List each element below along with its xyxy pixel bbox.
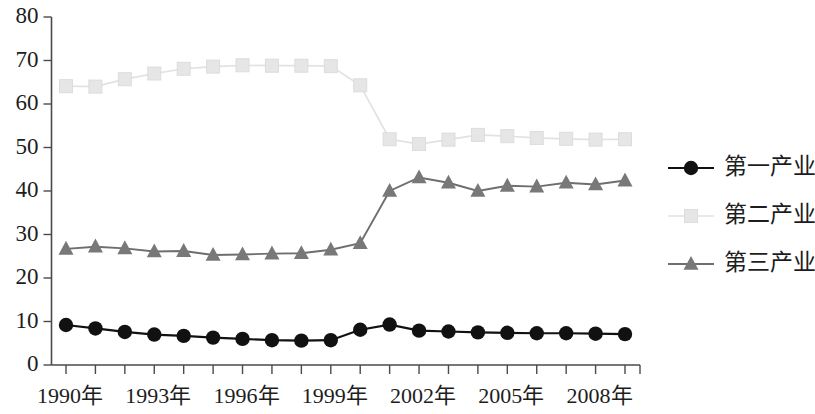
data-point-marker [294,333,308,347]
chart-series-group [59,59,633,348]
data-point-marker [295,59,308,72]
legend-item-label: 第三产业 [724,250,815,275]
data-point-marker [685,210,698,223]
y-axis-tick-label: 20 [16,264,39,289]
data-point-marker [265,333,279,347]
y-axis-tick-label: 60 [16,90,39,115]
data-point-marker [588,326,602,340]
data-point-marker [559,326,573,340]
data-point-marker [324,333,338,347]
data-point-marker [589,133,602,146]
data-point-marker [530,131,543,144]
data-point-marker [413,138,426,151]
data-point-marker [88,321,102,335]
legend-item-label: 第一产业 [724,154,815,179]
data-point-marker [324,60,337,73]
y-axis-tick-label: 10 [16,308,39,333]
y-axis-tick-label: 80 [16,3,39,28]
data-point-marker [59,318,73,332]
data-point-marker [88,239,103,253]
data-point-marker [412,169,427,183]
data-point-marker [530,326,544,340]
legend-item-3: 第三产业 [668,250,815,275]
data-point-marker [176,329,190,343]
data-point-marker [471,128,484,141]
series-2 [60,59,632,151]
data-point-marker [442,133,455,146]
y-axis-tick-label: 0 [27,351,39,376]
data-point-marker [618,173,633,187]
x-axis-tick-label: 1990年 [37,383,103,408]
data-point-marker [559,175,574,189]
data-point-marker [353,235,368,249]
x-axis-tick-label: 2005年 [478,383,544,408]
x-axis-tick-label: 1999年 [302,383,368,408]
data-point-marker [441,324,455,338]
series-1 [59,317,632,347]
data-point-marker [471,325,485,339]
data-point-marker [89,80,102,93]
data-point-marker [618,327,632,341]
data-point-marker [118,73,131,86]
y-axis: 01020304050607080 [16,3,52,376]
data-point-marker [148,67,161,80]
data-point-marker [560,132,573,145]
legend-item-label: 第二产业 [724,202,815,227]
x-axis-tick-label: 1993年 [125,383,191,408]
data-point-marker [264,246,279,260]
data-point-marker [147,327,161,341]
y-axis-tick-label: 70 [16,47,39,72]
x-axis-tick-label: 2002年 [390,383,456,408]
data-point-marker [207,60,220,73]
x-axis-tick-label: 2008年 [567,383,633,408]
data-point-marker [382,317,396,331]
data-point-marker [265,59,278,72]
data-point-marker [500,326,514,340]
data-point-marker [353,323,367,337]
series-3 [59,169,633,260]
legend-item-2: 第二产业 [668,202,815,227]
x-axis-tick-label: 1996年 [214,383,280,408]
y-axis-tick-label: 50 [16,134,39,159]
data-point-marker [684,161,698,175]
line-chart: 01020304050607080 1990年1993年1996年1999年20… [0,0,815,414]
data-point-marker [235,332,249,346]
data-point-marker [176,243,191,257]
legend-item-1: 第一产业 [668,154,815,179]
data-point-marker [177,62,190,75]
y-axis-tick-label: 40 [16,177,39,202]
x-axis: 1990年1993年1996年1999年2002年2005年2008年 [37,365,640,408]
data-point-marker [354,79,367,92]
data-point-marker [206,330,220,344]
data-point-marker [500,178,515,192]
y-axis-tick-label: 30 [16,221,39,246]
data-point-marker [412,323,426,337]
data-point-marker [684,256,699,270]
data-point-marker [236,59,249,72]
data-point-marker [619,133,632,146]
data-point-marker [383,133,396,146]
data-point-marker [501,130,514,143]
data-point-marker [60,80,73,93]
data-point-marker [382,183,397,197]
chart-figure: 01020304050607080 1990年1993年1996年1999年20… [0,0,815,414]
chart-legend: 第一产业第二产业第三产业 [668,154,815,275]
data-point-marker [118,325,132,339]
